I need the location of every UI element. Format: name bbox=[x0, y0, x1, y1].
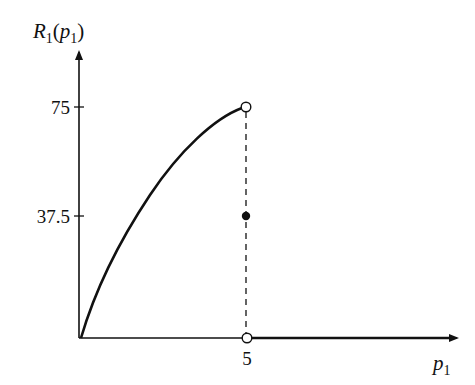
filled-circle-mid bbox=[242, 212, 250, 220]
y-label-arg-sub: 1 bbox=[70, 31, 77, 46]
revenue-curve bbox=[81, 108, 242, 338]
x-label-sub: 1 bbox=[444, 363, 451, 378]
y-label-paren-open: ( bbox=[53, 19, 60, 43]
y-tick-label-37-5: 37.5 bbox=[37, 206, 70, 227]
y-label-paren-close: ) bbox=[77, 19, 84, 43]
y-axis-label: R1(p1) bbox=[32, 19, 84, 46]
y-label-main: R bbox=[32, 19, 46, 43]
chart-canvas: 75 37.5 5 R1(p1) p1 bbox=[0, 0, 475, 385]
x-axis-label: p1 bbox=[431, 351, 451, 378]
y-tick-label-75: 75 bbox=[51, 97, 70, 118]
x-tick-label-5: 5 bbox=[242, 348, 252, 369]
y-label-sub: 1 bbox=[46, 31, 53, 46]
open-circle-bottom bbox=[242, 333, 252, 343]
open-circle-top bbox=[241, 102, 251, 112]
y-label-arg: p bbox=[58, 19, 71, 43]
x-label-main: p bbox=[431, 351, 444, 375]
